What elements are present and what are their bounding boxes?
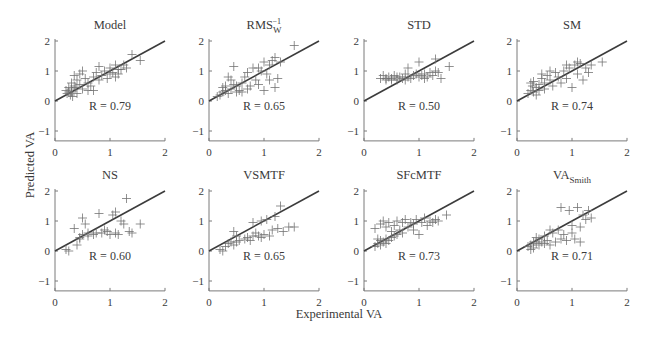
- y-tick-label: −1: [192, 125, 204, 137]
- data-point-marker: [576, 223, 585, 232]
- y-tick-label: 2: [199, 185, 205, 197]
- y-tick-label: −1: [38, 125, 50, 137]
- panel-vsmtf: −1012012VSMTFR = 0.65: [192, 168, 321, 308]
- panel-rms-w: −1012012RMSW−1R = 0.65: [192, 17, 321, 158]
- x-tick-label: 1: [569, 146, 575, 158]
- x-tick-label: 1: [261, 296, 267, 308]
- y-tick-label: 0: [354, 95, 360, 107]
- data-point-marker: [136, 220, 145, 229]
- data-point-marker: [573, 70, 582, 79]
- y-tick-label: 1: [45, 65, 51, 77]
- x-tick-label: 0: [206, 146, 212, 158]
- x-tick-label: 2: [471, 296, 477, 308]
- data-point-marker: [431, 55, 440, 64]
- panel-title: SFcMTF: [396, 168, 441, 182]
- x-tick-label: 2: [471, 146, 477, 158]
- y-tick-label: 1: [354, 215, 360, 227]
- data-point-marker: [260, 86, 269, 95]
- data-point-marker: [442, 211, 451, 220]
- correlation-label: R = 0.65: [243, 249, 285, 263]
- x-tick-label: 1: [569, 296, 575, 308]
- panel-sm: −1012012SMR = 0.74: [500, 18, 629, 158]
- y-tick-label: 1: [199, 65, 205, 77]
- identity-line: [364, 41, 474, 101]
- y-tick-label: 1: [45, 215, 51, 227]
- y-tick-label: −1: [347, 275, 359, 287]
- data-point-marker: [598, 58, 607, 67]
- y-tick-label: 2: [354, 35, 360, 47]
- x-tick-label: 0: [52, 146, 58, 158]
- data-point-marker: [273, 74, 282, 83]
- data-point-marker: [579, 76, 588, 85]
- panel-ns: −1012012NSR = 0.60: [38, 168, 167, 308]
- x-tick-label: 2: [624, 296, 630, 308]
- data-point-marker: [229, 62, 238, 71]
- data-point-marker: [568, 83, 577, 92]
- panel-model: −1012012ModelR = 0.79: [38, 18, 167, 158]
- x-tick-label: 2: [162, 296, 168, 308]
- x-tick-label: 1: [107, 296, 113, 308]
- correlation-label: R = 0.65: [243, 99, 285, 113]
- panels-group: −1012012ModelR = 0.79−1012012RMSW−1R = 0…: [38, 17, 629, 308]
- x-axis-label: Experimental VA: [296, 307, 383, 321]
- data-point-marker: [95, 209, 104, 218]
- y-tick-label: 0: [199, 245, 205, 257]
- y-tick-label: −1: [38, 275, 50, 287]
- panel-sfcmtf: −1012012SFcMTFR = 0.73: [347, 168, 476, 308]
- x-tick-label: 0: [514, 146, 520, 158]
- data-point-marker: [573, 203, 582, 212]
- y-tick-label: 1: [354, 65, 360, 77]
- y-tick-label: 2: [507, 35, 513, 47]
- x-tick-label: 0: [361, 146, 367, 158]
- panel-title: NS: [102, 168, 118, 182]
- panel-title: STD: [407, 18, 431, 32]
- data-point-marker: [445, 62, 454, 71]
- data-point-marker: [276, 202, 285, 211]
- data-point-marker: [271, 83, 280, 92]
- x-tick-label: 1: [107, 146, 113, 158]
- y-tick-label: 0: [354, 245, 360, 257]
- y-tick-label: 0: [45, 245, 51, 257]
- y-tick-label: 2: [45, 35, 51, 47]
- y-tick-label: 0: [507, 245, 513, 257]
- panel-title: VASmith: [553, 168, 591, 185]
- data-point-marker: [565, 206, 574, 215]
- data-point-marker: [290, 41, 299, 50]
- x-tick-label: 2: [162, 146, 168, 158]
- y-tick-label: 0: [507, 95, 513, 107]
- y-tick-label: −1: [347, 125, 359, 137]
- panel-title: VSMTF: [243, 168, 285, 182]
- correlation-label: R = 0.73: [398, 249, 440, 263]
- y-tick-label: 1: [507, 65, 513, 77]
- correlation-label: R = 0.60: [89, 249, 131, 263]
- y-tick-label: 1: [507, 215, 513, 227]
- data-point-marker: [136, 56, 145, 65]
- y-axis-label: Predicted VA: [23, 132, 37, 199]
- data-point-marker: [70, 224, 79, 233]
- y-tick-label: −1: [192, 275, 204, 287]
- panel-title: Model: [94, 18, 127, 32]
- correlation-label: R = 0.71: [551, 249, 593, 263]
- panel-title: SM: [563, 18, 581, 32]
- y-tick-label: 2: [507, 185, 513, 197]
- x-tick-label: 2: [316, 146, 322, 158]
- y-tick-label: 2: [45, 185, 51, 197]
- data-point-marker: [262, 215, 271, 224]
- x-tick-label: 1: [416, 146, 422, 158]
- data-point-marker: [537, 70, 546, 79]
- y-tick-label: −1: [500, 275, 512, 287]
- y-tick-label: 2: [199, 35, 205, 47]
- y-tick-label: 1: [199, 215, 205, 227]
- correlation-label: R = 0.79: [89, 99, 131, 113]
- correlation-label: R = 0.50: [398, 99, 440, 113]
- data-point-marker: [415, 230, 424, 239]
- panel-std: −1012012STDR = 0.50: [347, 18, 476, 158]
- x-tick-label: 0: [206, 296, 212, 308]
- data-point-marker: [557, 203, 566, 212]
- y-tick-label: 0: [199, 95, 205, 107]
- figure-canvas: −1012012ModelR = 0.79−1012012RMSW−1R = 0…: [0, 0, 653, 338]
- y-tick-label: 0: [45, 95, 51, 107]
- x-tick-label: 2: [624, 146, 630, 158]
- panel-title: RMSW−1: [247, 17, 282, 35]
- panel-va-smith: −1012012VASmithR = 0.71: [500, 168, 629, 308]
